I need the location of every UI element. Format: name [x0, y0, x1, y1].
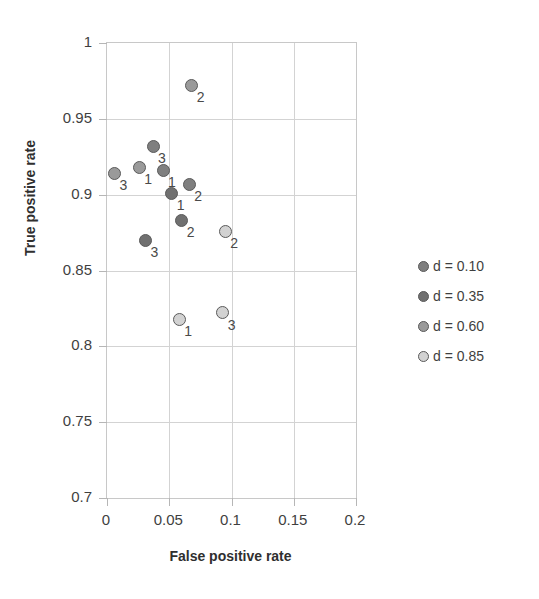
y-axis-tick	[99, 195, 107, 196]
x-axis-tick-label: 0.1	[201, 512, 261, 527]
y-axis-title: True positive rate	[22, 113, 38, 283]
x-axis-title: False positive rate	[106, 548, 355, 564]
legend-marker-icon	[418, 291, 429, 302]
x-axis-tick	[356, 498, 357, 506]
y-axis-tick	[99, 43, 107, 44]
x-axis-tick-label: 0.2	[325, 512, 385, 527]
legend-item-label: d = 0.35	[433, 288, 484, 304]
x-axis-tick-label: 0.05	[138, 512, 198, 527]
y-axis-tick	[99, 422, 107, 423]
x-axis-tick	[294, 498, 295, 506]
x-axis-tick-label: 0	[76, 512, 136, 527]
y-axis-tick-label: 0.7	[40, 489, 92, 504]
data-point-label: 1	[184, 324, 192, 338]
y-axis-tick	[99, 119, 107, 120]
y-axis-tick-label: 0.75	[40, 413, 92, 428]
y-axis-tick-label: 0.8	[40, 337, 92, 352]
data-point-label: 2	[230, 236, 238, 250]
y-axis-tick	[99, 346, 107, 347]
legend-item[interactable]: d = 0.35	[418, 281, 536, 311]
x-axis-tick-label: 0.15	[263, 512, 323, 527]
legend-item[interactable]: d = 0.85	[418, 341, 536, 371]
y-axis-tick-label: 0.85	[40, 262, 92, 277]
legend-item[interactable]: d = 0.10	[418, 251, 536, 281]
legend-item-label: d = 0.85	[433, 348, 484, 364]
y-axis-tick-label: 0.9	[40, 186, 92, 201]
y-axis-tick-label: 1	[40, 34, 92, 49]
data-point-label: 3	[151, 245, 159, 259]
legend-item-label: d = 0.60	[433, 318, 484, 334]
data-point-label: 2	[197, 90, 205, 104]
chart-legend: d = 0.10d = 0.35d = 0.60d = 0.85	[418, 251, 536, 371]
plot-area: 312123123123	[106, 42, 357, 499]
data-point-label: 1	[177, 198, 185, 212]
data-point-label: 1	[144, 172, 152, 186]
legend-item-label: d = 0.10	[433, 258, 484, 274]
data-point-label: 2	[187, 225, 195, 239]
y-axis-tick	[99, 271, 107, 272]
legend-marker-icon	[418, 351, 429, 362]
legend-marker-icon	[418, 321, 429, 332]
gridline-vertical	[169, 43, 170, 498]
top-artifact	[108, 4, 168, 14]
x-axis-tick	[107, 498, 108, 506]
data-point-label: 3	[228, 318, 236, 332]
data-point-label: 3	[119, 178, 127, 192]
gridline-vertical	[294, 43, 295, 498]
legend-marker-icon	[418, 261, 429, 272]
x-axis-tick	[169, 498, 170, 506]
y-axis-tick	[99, 498, 107, 499]
data-point-label: 2	[194, 189, 202, 203]
legend-item[interactable]: d = 0.60	[418, 311, 536, 341]
data-point-label: 3	[158, 151, 166, 165]
gridline-vertical	[232, 43, 233, 498]
y-axis-tick-label: 0.95	[40, 110, 92, 125]
x-axis-tick	[232, 498, 233, 506]
scatter-chart-figure: 312123123123 0.70.750.80.850.90.951 00.0…	[0, 0, 539, 599]
